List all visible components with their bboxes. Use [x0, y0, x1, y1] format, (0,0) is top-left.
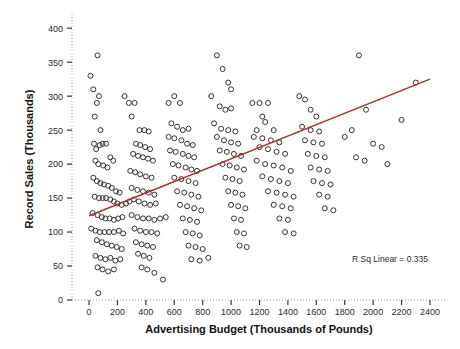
- x-tick-label: 2400: [420, 307, 440, 317]
- x-tick-label: 600: [167, 307, 182, 317]
- x-tick-label: 1200: [249, 307, 269, 317]
- y-tick-label: 200: [48, 159, 63, 169]
- x-tick-label: 400: [138, 307, 153, 317]
- x-axis-title: Advertising Budget (Thousands of Pounds): [145, 323, 373, 335]
- y-tick-label: 250: [48, 126, 63, 136]
- chart-canvas: 050100150200250300350400 020040060080010…: [0, 0, 460, 349]
- x-tick-label: 200: [110, 307, 125, 317]
- y-tick-label: 100: [48, 227, 63, 237]
- y-tick-label: 350: [48, 58, 63, 68]
- chart-background: [0, 0, 460, 349]
- y-tick-label: 300: [48, 92, 63, 102]
- y-tick-label: 150: [48, 193, 63, 203]
- r-squared-annotation: R Sq Linear = 0.335: [352, 254, 428, 264]
- x-tick-label: 2000: [363, 307, 383, 317]
- x-tick-label: 1600: [306, 307, 326, 317]
- x-tick-label: 1400: [278, 307, 298, 317]
- x-tick-label: 1000: [221, 307, 241, 317]
- x-tick-label: 2200: [392, 307, 412, 317]
- x-tick-label: 800: [195, 307, 210, 317]
- x-tick-label: 0: [87, 307, 92, 317]
- y-tick-label: 50: [53, 261, 63, 271]
- scatter-plot-figure: 050100150200250300350400 020040060080010…: [0, 0, 460, 349]
- y-tick-label: 0: [58, 295, 63, 305]
- y-tick-label: 400: [48, 24, 63, 34]
- y-axis-title: Record Sales (Thousands): [23, 89, 35, 228]
- x-tick-label: 1800: [335, 307, 355, 317]
